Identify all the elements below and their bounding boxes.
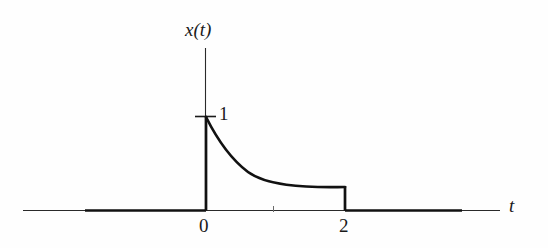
x-tick-label-zero: 0: [199, 216, 209, 235]
y-tick-label-one: 1: [219, 104, 229, 123]
signal-plot-figure: x(t) t 1 0 2: [0, 0, 548, 248]
x-axis-label: t: [509, 196, 514, 215]
x-tick-label-two: 2: [339, 216, 349, 235]
y-axis-label: x(t): [185, 20, 211, 39]
plot-canvas: [0, 0, 548, 248]
exponential-decay-curve: [206, 117, 345, 187]
